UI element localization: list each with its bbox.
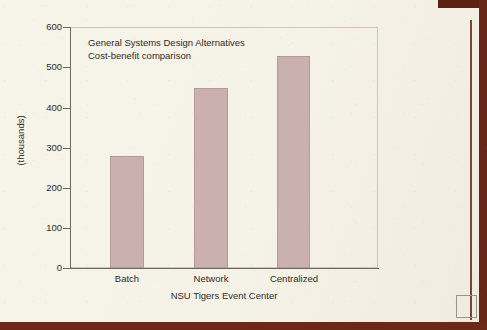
y-tick-label: 600 bbox=[16, 22, 62, 32]
y-tick-label: 0 bbox=[16, 263, 62, 273]
y-tick-mark-500 bbox=[63, 67, 71, 68]
y-tick-mark-0 bbox=[63, 268, 71, 269]
binder-edge-right bbox=[479, 0, 487, 330]
x-category-label-batch: Batch bbox=[97, 274, 157, 284]
corner-square-marker bbox=[456, 295, 477, 318]
x-axis-line bbox=[70, 268, 379, 269]
chart-annotation: General Systems Design Alternatives Cost… bbox=[88, 36, 245, 62]
x-category-label-network: Network bbox=[181, 274, 241, 284]
scanned-page: 0 100 200 300 400 500 600 Batch Network … bbox=[0, 0, 487, 330]
y-tick-label: 100 bbox=[16, 223, 62, 233]
binder-band-bottom bbox=[0, 322, 487, 330]
binder-rule-right bbox=[470, 20, 472, 320]
y-tick-mark-300 bbox=[63, 148, 71, 149]
y-tick-mark-600 bbox=[63, 27, 71, 28]
y-tick-mark-100 bbox=[63, 228, 71, 229]
annotation-line-1: General Systems Design Alternatives bbox=[88, 36, 245, 49]
y-tick-label: 500 bbox=[16, 62, 62, 72]
bar-batch bbox=[110, 156, 144, 268]
y-tick-mark-200 bbox=[63, 188, 71, 189]
x-category-label-centralized: Centralized bbox=[263, 274, 325, 284]
x-axis-title: NSU Tigers Event Center bbox=[70, 290, 378, 301]
y-axis-title: (thousands) bbox=[15, 101, 26, 181]
y-tick-mark-400 bbox=[63, 108, 71, 109]
y-tick-label: 200 bbox=[16, 183, 62, 193]
bar-centralized bbox=[277, 56, 310, 268]
bar-chart: 0 100 200 300 400 500 600 Batch Network … bbox=[0, 0, 487, 330]
bar-network bbox=[194, 88, 228, 268]
annotation-line-2: Cost-benefit comparison bbox=[88, 49, 245, 62]
